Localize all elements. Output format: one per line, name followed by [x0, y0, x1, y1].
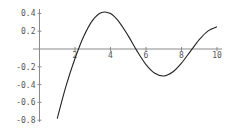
- y-tick-label: -0.8: [16, 116, 35, 125]
- y-ticks: 0.40.2-0.2-0.4-0.6-0.8: [16, 9, 41, 125]
- y-tick-label: 0.2: [21, 27, 36, 36]
- y-axis: 0.40.2-0.2-0.4-0.6-0.8: [16, 9, 41, 125]
- data-curve: [57, 12, 217, 119]
- x-tick-label: 6: [144, 51, 149, 60]
- x-axis: 246810: [33, 47, 222, 60]
- y-tick-label: 0.4: [21, 9, 36, 18]
- y-tick-label: -0.6: [16, 98, 35, 107]
- x-tick-label: 4: [108, 51, 113, 60]
- y-tick-label: -0.4: [16, 81, 35, 90]
- x-tick-label: 8: [179, 51, 184, 60]
- line-chart: 246810 0.40.2-0.2-0.4-0.6-0.8: [0, 0, 235, 132]
- y-tick-label: -0.2: [16, 63, 35, 72]
- x-tick-label: 10: [212, 51, 222, 60]
